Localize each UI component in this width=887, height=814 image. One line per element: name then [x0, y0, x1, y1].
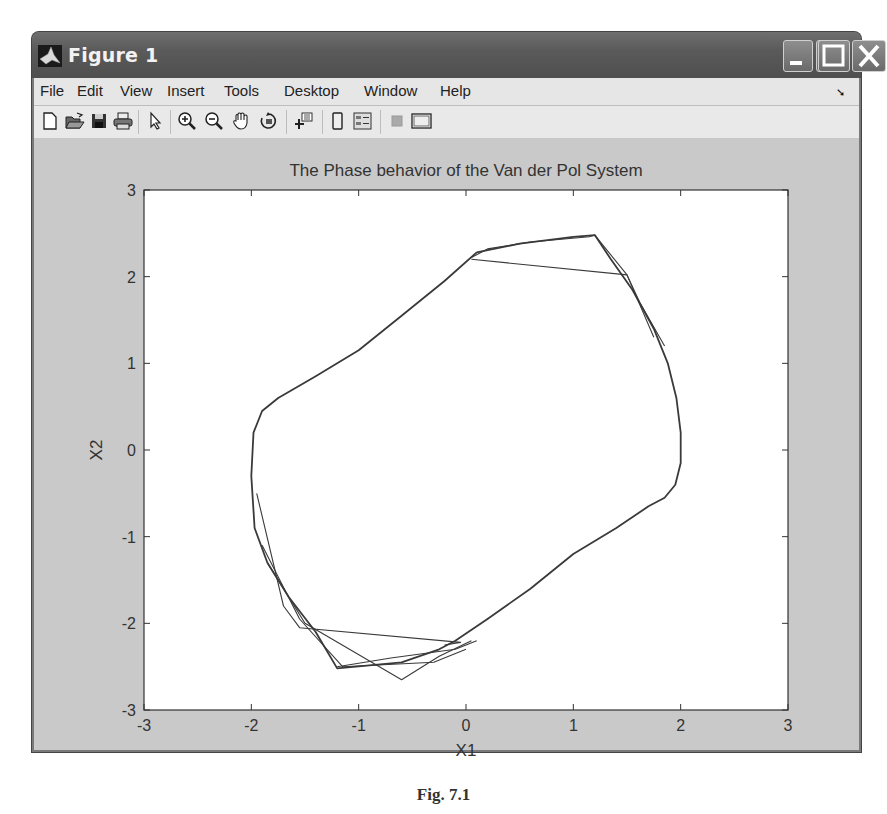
menu-window[interactable]: Window [364, 82, 417, 99]
printer-icon [112, 111, 134, 131]
insert-colorbar-button[interactable] [328, 111, 348, 131]
print-button[interactable] [112, 111, 132, 131]
show-plot-tools-button[interactable] [410, 111, 430, 131]
maximize-icon [824, 46, 843, 65]
toolbar-separator [380, 110, 381, 134]
title-bar[interactable]: Figure 1 [32, 32, 861, 78]
toolbar-separator [286, 110, 287, 134]
floppy-disk-icon [89, 111, 109, 131]
figure-window: Figure 1 File Edit View Insert Tools Des… [32, 32, 861, 752]
legend-icon [352, 111, 374, 131]
show-tools-icon [410, 111, 434, 131]
toolbar-separator [170, 110, 171, 134]
menu-desktop[interactable]: Desktop [284, 82, 339, 99]
menu-insert[interactable]: Insert [167, 82, 205, 99]
menu-file[interactable]: File [40, 82, 64, 99]
menu-bar: File Edit View Insert Tools Desktop Wind… [34, 78, 859, 106]
toolbar-separator [322, 110, 323, 134]
figure-toolbar [34, 106, 859, 139]
dock-figure-icon[interactable]: ➘ [836, 86, 845, 99]
close-icon [860, 46, 878, 66]
figure-canvas[interactable] [34, 139, 859, 750]
toolbar-separator [138, 110, 139, 134]
minimize-window-button[interactable] [783, 40, 813, 72]
menu-tools[interactable]: Tools [224, 82, 259, 99]
zoom-out-button[interactable] [204, 111, 224, 131]
zoom-in-button[interactable] [177, 111, 197, 131]
new-document-icon [40, 111, 60, 131]
figure-caption: Fig. 7.1 [0, 785, 887, 805]
save-button[interactable] [89, 111, 109, 131]
folder-open-icon [64, 111, 86, 131]
colorbar-icon [328, 111, 348, 131]
maximize-window-button[interactable] [818, 40, 850, 72]
data-cursor-icon [293, 111, 315, 131]
minimize-icon [790, 61, 802, 65]
menu-help[interactable]: Help [440, 82, 471, 99]
zoom-out-icon [204, 111, 226, 131]
hide-tools-icon [387, 111, 407, 131]
open-file-button[interactable] [64, 111, 84, 131]
data-cursor-button[interactable] [293, 111, 313, 131]
hide-plot-tools-button[interactable] [387, 111, 407, 131]
edit-plot-button[interactable] [146, 111, 166, 131]
pan-button[interactable] [231, 111, 251, 131]
matlab-logo-icon [38, 45, 62, 67]
rotate-3d-button[interactable] [258, 111, 278, 131]
insert-legend-button[interactable] [352, 111, 372, 131]
menu-edit[interactable]: Edit [77, 82, 103, 99]
menu-view[interactable]: View [120, 82, 152, 99]
arrow-pointer-icon [146, 111, 166, 131]
hand-icon [231, 111, 253, 131]
zoom-in-icon [177, 111, 199, 131]
window-title: Figure 1 [68, 44, 158, 66]
new-figure-button[interactable] [40, 111, 60, 131]
close-window-button[interactable] [852, 40, 886, 72]
rotate-icon [258, 111, 280, 131]
